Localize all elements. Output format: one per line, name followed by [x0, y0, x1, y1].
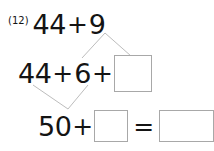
math-worksheet-problem: (12) 44 + 9 44 + 6 + 50 + =: [0, 0, 214, 151]
top-plus-operator: +: [66, 12, 89, 37]
middle-first-addend: 44: [18, 60, 51, 87]
bottom-plus-operator: +: [71, 114, 94, 139]
middle-second-addend: 6: [74, 60, 91, 87]
top-first-addend: 44: [33, 11, 66, 38]
bottom-equals-operator: =: [128, 114, 159, 139]
top-second-addend: 9: [89, 11, 106, 38]
middle-plus-operator-1: +: [51, 61, 74, 86]
problem-number-label: (12): [8, 16, 33, 33]
bottom-first-addend: 50: [38, 113, 71, 140]
answer-box-bottom-addend[interactable]: [94, 110, 128, 142]
equation-row-middle: 44 + 6 +: [18, 55, 152, 92]
equation-row-bottom: 50 + =: [38, 110, 214, 142]
equation-row-top: (12) 44 + 9: [8, 11, 106, 38]
answer-box-middle-addend[interactable]: [114, 55, 152, 92]
middle-plus-operator-2: +: [91, 61, 114, 86]
answer-box-bottom-result[interactable]: [159, 110, 214, 142]
connector-nine-to-blank: [105, 33, 131, 56]
